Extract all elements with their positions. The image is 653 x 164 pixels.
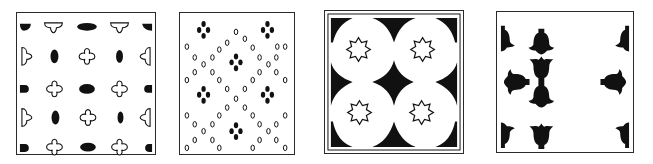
half-tulip-icon (501, 122, 515, 148)
four-point-star-icon (372, 60, 413, 105)
tulip-icon (529, 82, 555, 108)
half-dot-icon (20, 144, 29, 152)
half-oval-icon (142, 24, 152, 31)
rosette-icon (197, 86, 210, 104)
quatrefoil-icon (47, 139, 63, 155)
side-motif-icon (22, 48, 32, 66)
quarter-star-icon (372, 18, 415, 43)
quarter-star-icon (435, 62, 457, 105)
tulip-icon (529, 29, 555, 55)
tee-motif-icon (45, 23, 63, 33)
eight-point-star-icon (410, 101, 434, 125)
eight-point-star-icon (348, 101, 372, 125)
oval-icon (79, 84, 95, 94)
half-oval-icon (20, 24, 31, 31)
corner-star-icon (331, 18, 353, 43)
oval-icon (52, 111, 60, 125)
quatrefoil-icon (112, 139, 128, 155)
pattern-panel-4: Pattern 4: tulip / bell silhouettes in m… (496, 11, 634, 153)
quatrefoil-icon (79, 49, 95, 65)
quatrefoil-icon (112, 81, 128, 97)
tulip-icon (504, 69, 530, 95)
side-motif-icon (140, 109, 150, 127)
eight-point-star-icon (411, 38, 435, 62)
corner-star-icon (331, 121, 353, 147)
ring-lattice (185, 29, 287, 150)
rosette-icon (229, 122, 242, 140)
oval-icon (118, 112, 124, 124)
rosette-icon (229, 54, 242, 72)
side-motif-icon (140, 48, 150, 66)
half-tulip-icon (615, 122, 629, 148)
quarter-star-icon (372, 121, 415, 147)
rosette-icon (197, 21, 210, 39)
quatrefoil-icon (47, 81, 63, 97)
tulip-pattern (497, 12, 633, 152)
tulip-icon (530, 123, 554, 149)
half-tulip-icon (501, 26, 515, 52)
half-dot-icon (20, 85, 29, 93)
rosette-icon (261, 86, 274, 104)
half-dot-icon (145, 144, 152, 152)
quatrefoil-grid-pattern (17, 13, 155, 154)
oval-icon (80, 143, 96, 152)
rosette-lattice-pattern (180, 13, 294, 154)
pattern-panel-2: Pattern 2: four-dot rosettes in diamond … (179, 12, 295, 155)
oval-icon (51, 49, 59, 63)
half-tulip-icon (615, 26, 629, 52)
eight-point-star-icon (347, 38, 371, 62)
oval-icon (77, 23, 97, 31)
corner-star-icon (435, 18, 457, 43)
corner-star-icon (435, 121, 457, 147)
tulip-icon (530, 56, 554, 82)
side-motif-icon (22, 109, 32, 127)
quarter-star-icon (331, 62, 353, 105)
star-tile-pattern (325, 11, 463, 153)
half-dot-icon (144, 85, 152, 93)
pattern-panel-3: Pattern 3: concave four-point stars with… (324, 10, 464, 154)
tulip-icon (600, 69, 626, 95)
rosette-icon (261, 21, 274, 39)
oval-icon (116, 50, 123, 63)
pattern-panel-1: Pattern 1: grid of quatrefoils, ovals an… (16, 12, 156, 155)
quatrefoil-icon (80, 110, 96, 126)
tee-motif-icon (111, 23, 129, 33)
